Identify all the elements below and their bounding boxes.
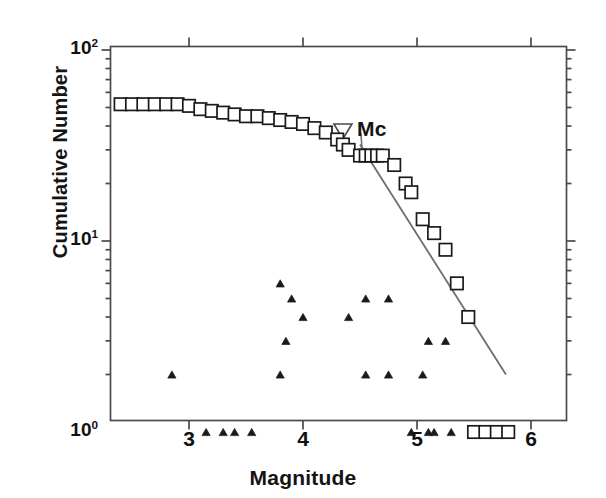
noncumulative-triangle-marker xyxy=(447,428,455,435)
x-tick-label-5: 5 xyxy=(397,428,437,449)
noncumulative-triangle-marker xyxy=(384,295,392,302)
cumulative-square-marker xyxy=(285,116,297,128)
cumulative-square-marker xyxy=(194,103,206,115)
cumulative-square-marker xyxy=(114,98,126,110)
noncumulative-triangle-marker xyxy=(299,313,307,320)
cumulative-square-marker xyxy=(491,426,503,438)
cumulative-square-marker xyxy=(417,213,429,225)
cumulative-square-marker xyxy=(342,144,354,156)
y-tick-mantissa-1: 10 xyxy=(70,419,91,440)
x-tick-label-3: 3 xyxy=(169,428,209,449)
y-tick-exponent-100: 2 xyxy=(91,36,98,49)
cumulative-square-marker xyxy=(240,110,252,122)
cumulative-square-marker xyxy=(439,244,451,256)
noncumulative-triangle-marker xyxy=(219,428,227,435)
cumulative-square-marker xyxy=(171,98,183,110)
x-tick-label-4: 4 xyxy=(283,428,323,449)
cumulative-square-markers xyxy=(114,98,514,438)
y-tick-mantissa-100: 10 xyxy=(70,37,91,58)
noncumulative-triangle-marker xyxy=(384,371,392,378)
x-axis-title: Magnitude xyxy=(0,466,606,490)
noncumulative-triangle-marker xyxy=(282,337,290,344)
mc-text-label: Mc xyxy=(357,117,387,141)
cumulative-square-marker xyxy=(206,105,218,117)
noncumulative-triangle-marker xyxy=(276,280,284,287)
figure-container: Mc 3 4 5 6 102 101 100 Magnitude Cumulat… xyxy=(0,0,606,498)
cumulative-square-marker xyxy=(228,108,240,120)
cumulative-square-marker xyxy=(462,311,474,323)
noncumulative-triangle-marker xyxy=(419,371,427,378)
cumulative-square-marker xyxy=(377,149,389,161)
cumulative-square-marker xyxy=(274,114,286,126)
cumulative-square-marker xyxy=(388,159,400,171)
noncumulative-triangle-marker xyxy=(424,337,432,344)
cumulative-square-marker xyxy=(263,112,275,124)
noncumulative-triangle-marker xyxy=(345,313,353,320)
cumulative-square-marker xyxy=(308,122,320,134)
fit-line-group xyxy=(360,145,506,375)
y-tick-label-1: 100 xyxy=(42,420,98,439)
noncumulative-triangle-marker xyxy=(168,371,176,378)
cumulative-square-marker xyxy=(126,98,138,110)
cumulative-square-marker xyxy=(468,426,480,438)
y-tick-exponent-10: 1 xyxy=(91,227,98,240)
noncumulative-triangle-marker xyxy=(441,337,449,344)
cumulative-square-marker xyxy=(320,126,332,138)
y-tick-label-100: 102 xyxy=(42,38,98,57)
cumulative-square-marker xyxy=(479,426,491,438)
cumulative-square-marker xyxy=(428,227,440,239)
noncumulative-triangle-marker xyxy=(276,371,284,378)
noncumulative-triangle-marker xyxy=(362,371,370,378)
cumulative-square-marker xyxy=(160,98,172,110)
y-tick-exponent-1: 0 xyxy=(91,418,98,431)
cumulative-square-marker xyxy=(217,106,229,118)
noncumulative-triangle-marker xyxy=(288,295,296,302)
y-tick-label-10: 101 xyxy=(42,229,98,248)
cumulative-square-marker xyxy=(149,98,161,110)
gutenberg-richter-fit-line xyxy=(360,145,506,375)
noncumulative-triangle-marker xyxy=(231,428,239,435)
x-tick-label-6: 6 xyxy=(511,428,551,449)
cumulative-square-marker xyxy=(405,186,417,198)
noncumulative-triangle-marker xyxy=(248,428,256,435)
noncumulative-triangle-marker xyxy=(362,295,370,302)
cumulative-square-marker xyxy=(297,118,309,130)
cumulative-square-marker xyxy=(137,98,149,110)
cumulative-square-marker xyxy=(183,100,195,112)
cumulative-square-marker xyxy=(451,277,463,289)
cumulative-square-marker xyxy=(251,110,263,122)
y-tick-mantissa-10: 10 xyxy=(70,228,91,249)
